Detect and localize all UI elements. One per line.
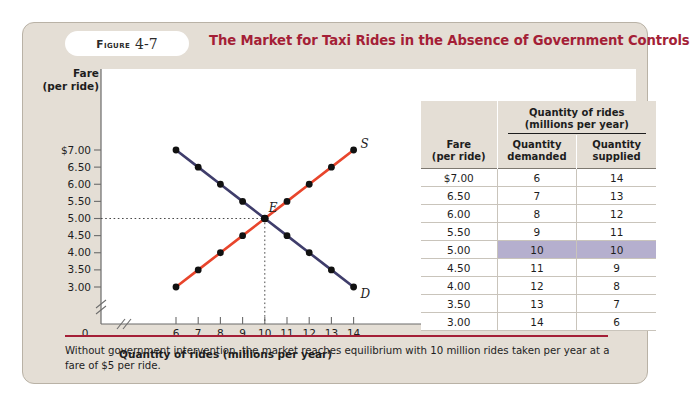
table-cell-supplied: 11 (577, 223, 656, 241)
table-cell-demanded: 9 (497, 223, 577, 241)
table-header-quantity-supplied: Quantity supplied (577, 135, 656, 169)
table-header-fare-line2: (per ride) (421, 151, 497, 163)
table-cell-fare: 4.50 (421, 259, 497, 277)
table-row: 3.00146 (421, 313, 656, 331)
table-header-supplied-line2: supplied (577, 151, 656, 163)
table-header-supplied-line1: Quantity (577, 139, 656, 151)
equilibrium-point (261, 215, 269, 223)
table-cell-fare: 3.50 (421, 295, 497, 313)
table-cell-demanded: 14 (497, 313, 577, 331)
table-row: $7.00614 (421, 169, 656, 187)
table-header-fare-line1: Fare (421, 139, 497, 151)
table-cell-fare: $7.00 (421, 169, 497, 187)
table-header-demanded-line1: Quantity (498, 139, 577, 151)
x-axis-tick-label: 7 (195, 327, 202, 339)
table-cell-fare: 4.00 (421, 277, 497, 295)
supply-demand-table: Fare (per ride) Quantity of rides (milli… (421, 101, 656, 331)
data-point-supply (284, 198, 291, 205)
table-header-group-line2: (millions per year) (508, 119, 646, 131)
table-row: 6.00812 (421, 205, 656, 223)
data-point-supply (306, 181, 313, 188)
equilibrium-marker-layer: E (261, 201, 278, 223)
table-cell-demanded: 11 (497, 259, 577, 277)
data-point-supply (350, 147, 357, 154)
y-axis-tick-label: 5.50 (68, 195, 91, 207)
y-axis-tick-label: $7.00 (61, 144, 91, 156)
table-row: 4.50119 (421, 259, 656, 277)
data-point-demand (173, 147, 180, 154)
table-cell-supplied: 8 (577, 277, 656, 295)
table-cell-demanded: 7 (497, 187, 577, 205)
table-cell-fare: 6.50 (421, 187, 497, 205)
data-point-supply (239, 232, 246, 239)
data-point-demand (328, 266, 335, 273)
x-axis-tick-label: 14 (347, 327, 361, 339)
table-header-quantity-group: Quantity of rides (millions per year) (497, 101, 656, 135)
table-row: 5.001010 (421, 241, 656, 259)
table-header-fare: Fare (per ride) (421, 101, 497, 169)
data-point-demand (284, 232, 291, 239)
y-axis-tick-label: 4.00 (68, 246, 91, 258)
x-axis-origin-label: 0 (82, 327, 89, 339)
data-point-demand (217, 181, 224, 188)
table-cell-demanded: 10 (497, 241, 577, 259)
x-axis-tick-label: 10 (258, 327, 271, 339)
table-cell-demanded: 8 (497, 205, 577, 223)
figure-caption: Without government intervention, the mar… (65, 343, 625, 373)
table-cell-demanded: 6 (497, 169, 577, 187)
data-point-demand (239, 198, 246, 205)
table-row: 3.50137 (421, 295, 656, 313)
x-axis-tick-label: 13 (325, 327, 338, 339)
curve-label-s: S (361, 137, 369, 151)
table-row: 6.50713 (421, 187, 656, 205)
table-cell-fare: 5.00 (421, 241, 497, 259)
table-cell-supplied: 6 (577, 313, 656, 331)
table-cell-fare: 6.00 (421, 205, 497, 223)
table-cell-demanded: 12 (497, 277, 577, 295)
y-axis-tick-label: 3.00 (68, 281, 91, 293)
caption-divider (65, 335, 608, 337)
data-point-demand (350, 284, 357, 291)
equilibrium-label: E (268, 201, 278, 215)
x-axis-tick-label: 6 (173, 327, 180, 339)
table-cell-supplied: 7 (577, 295, 656, 313)
data-point-supply (217, 249, 224, 256)
table-cell-fare: 3.00 (421, 313, 497, 331)
table-cell-supplied: 12 (577, 205, 656, 223)
y-axis-tick-label: 3.50 (68, 263, 91, 275)
x-axis-tick-label: 12 (303, 327, 316, 339)
y-axis-tick-label: 6.50 (68, 161, 91, 173)
table-cell-supplied: 9 (577, 259, 656, 277)
y-axis-tick-label: 6.00 (68, 178, 91, 190)
table-header-row-top: Fare (per ride) Quantity of rides (milli… (421, 101, 656, 135)
table-cell-demanded: 13 (497, 295, 577, 313)
table-header-group-line1: Quantity of rides (508, 107, 646, 119)
table-header-quantity-demanded: Quantity demanded (497, 135, 577, 169)
x-axis-tick-label: 8 (217, 327, 224, 339)
table-cell-supplied: 13 (577, 187, 656, 205)
y-axis-tick-label: 4.50 (68, 229, 91, 241)
x-axis-tick-label: 11 (280, 327, 293, 339)
curve-label-d: D (360, 287, 371, 301)
y-axis-tick-label: 5.00 (68, 212, 91, 224)
table-header: Fare (per ride) Quantity of rides (milli… (421, 101, 656, 169)
table-cell-supplied: 10 (577, 241, 656, 259)
data-point-demand (306, 249, 313, 256)
figure-card: Figure 4-7 The Market for Taxi Rides in … (22, 22, 648, 384)
data-point-supply (173, 284, 180, 291)
table-cell-fare: 5.50 (421, 223, 497, 241)
table-row: 5.50911 (421, 223, 656, 241)
data-point-supply (195, 266, 202, 273)
table-header-demanded-line2: demanded (498, 151, 577, 163)
data-point-demand (195, 164, 202, 171)
table-row: 4.00128 (421, 277, 656, 295)
table-cell-supplied: 14 (577, 169, 656, 187)
y-axis-ticks: $7.006.506.005.505.004.504.003.503.00 (61, 144, 101, 293)
table-body: $7.006146.507136.008125.509115.0010104.5… (421, 169, 656, 331)
x-axis-tick-label: 9 (239, 327, 246, 339)
data-point-supply (328, 164, 335, 171)
